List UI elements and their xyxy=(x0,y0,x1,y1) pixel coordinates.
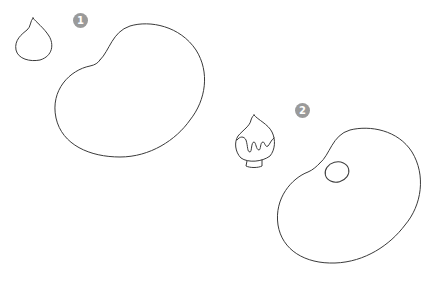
palette-outline-step2 xyxy=(277,128,420,263)
step-badge-1: 1 xyxy=(73,13,88,28)
drop-outline-step1 xyxy=(16,18,52,61)
step-badge-2: 2 xyxy=(295,103,310,118)
drip-lines xyxy=(237,137,274,152)
palette-thumb-hole xyxy=(323,159,351,185)
palette-outline-step1 xyxy=(55,24,205,157)
illustration xyxy=(0,0,435,289)
drawing-tutorial: 1 2 xyxy=(0,0,435,289)
drop-outline-step2 xyxy=(236,115,275,161)
